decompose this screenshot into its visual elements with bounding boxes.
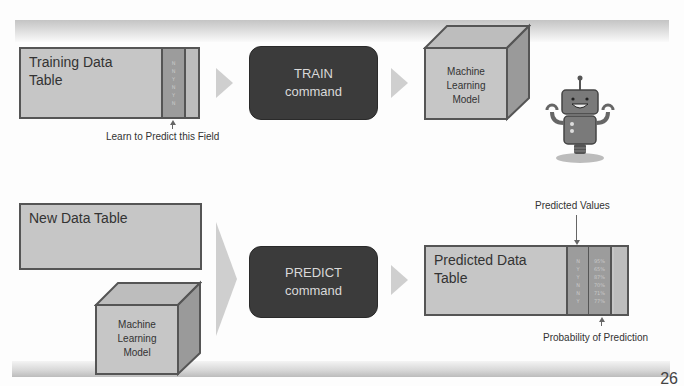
new-table-title: New Data Table: [29, 209, 128, 227]
cell: 65%: [594, 265, 605, 273]
cell: N: [172, 99, 176, 107]
new-data-table: New Data Table: [19, 203, 202, 270]
cell: Y: [576, 265, 579, 273]
cube-label-line1: Machine: [425, 65, 507, 79]
cell: N: [172, 67, 176, 75]
cell: 71%: [594, 289, 605, 297]
train-command-line1: TRAIN: [294, 65, 333, 83]
predicted-table-title-line1: Predicted Data: [434, 251, 527, 269]
cube-label-line1: Machine: [96, 318, 178, 332]
target-field-column: N N Y N Y N: [161, 49, 186, 117]
predict-command-line1: PREDICT: [285, 264, 342, 282]
cube-label-line3: Model: [425, 93, 507, 107]
cell: Y: [172, 91, 175, 99]
robot-icon: [540, 68, 620, 168]
probability-arrow-icon: [599, 317, 605, 322]
flow-chevron-icon: [216, 68, 233, 98]
predicted-values-label: Predicted Values: [535, 200, 610, 211]
cell: N: [576, 289, 580, 297]
cell: N: [172, 59, 176, 67]
header-gradient-band: [15, 20, 669, 42]
training-data-table: Training Data Table N N Y N Y N: [19, 47, 200, 119]
field-pointer-arrow-icon: [170, 120, 176, 125]
extra-column: [186, 49, 198, 117]
field-pointer-line: [172, 124, 173, 129]
page-number: 26: [660, 370, 678, 386]
train-command-line2: command: [285, 83, 342, 101]
predicted-values-column: N Y Y N N Y: [566, 247, 590, 314]
cell: Y: [576, 273, 579, 281]
flow-chevron-icon: [391, 68, 408, 98]
training-table-title-line2: Table: [29, 71, 113, 89]
probability-label: Probability of Prediction: [543, 332, 648, 343]
predicted-values-pointer-line: [576, 215, 577, 240]
training-table-title: Training Data Table: [29, 53, 113, 89]
probability-pointer-line: [601, 321, 602, 326]
cell: N: [576, 257, 580, 265]
flow-chevron-icon: [216, 222, 237, 336]
cell: Y: [172, 75, 175, 83]
predicted-table-title: Predicted Data Table: [434, 251, 527, 287]
cube-label-line3: Model: [96, 346, 178, 360]
predicted-table-title-line2: Table: [434, 269, 527, 287]
model-cube-label: Machine Learning Model: [425, 65, 507, 107]
cell: 77%: [594, 297, 605, 305]
cell: N: [172, 83, 176, 91]
cell: 95%: [594, 257, 605, 265]
learn-field-label: Learn to Predict this Field: [106, 131, 219, 142]
cell: 70%: [594, 281, 605, 289]
model-cube-label: Machine Learning Model: [96, 318, 178, 360]
probability-column: 95% 65% 87% 70% 71% 77%: [589, 247, 612, 314]
extra-column: [614, 247, 627, 314]
flow-chevron-icon: [391, 265, 408, 295]
training-table-title-line1: Training Data: [29, 53, 113, 71]
predict-command-box: PREDICT command: [249, 246, 378, 318]
predicted-data-table: Predicted Data Table N Y Y N N Y 95% 65%…: [424, 245, 629, 316]
predict-command-line2: command: [285, 282, 342, 300]
cell: Y: [576, 297, 579, 305]
train-command-box: TRAIN command: [249, 46, 378, 120]
cell: N: [576, 281, 580, 289]
cube-label-line2: Learning: [425, 79, 507, 93]
cell: 87%: [594, 273, 605, 281]
cube-label-line2: Learning: [96, 332, 178, 346]
